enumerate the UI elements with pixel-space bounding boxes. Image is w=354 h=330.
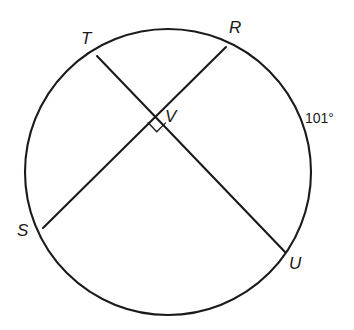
chord-sr bbox=[43, 47, 226, 228]
geometry-figure: T R V S U 101° bbox=[0, 0, 354, 330]
arc-measure-label-ru: 101° bbox=[305, 111, 334, 125]
chord-tu bbox=[97, 56, 285, 252]
point-label-t: T bbox=[81, 30, 91, 47]
point-label-s: S bbox=[17, 222, 28, 239]
circle-outline bbox=[25, 29, 311, 315]
point-label-u: U bbox=[289, 255, 301, 272]
geometry-canvas bbox=[0, 0, 354, 330]
point-label-r: R bbox=[229, 19, 241, 36]
point-label-v: V bbox=[165, 108, 176, 125]
